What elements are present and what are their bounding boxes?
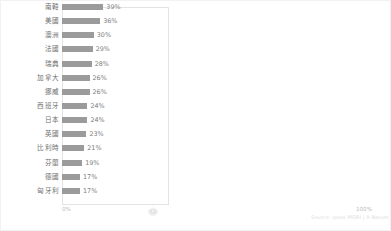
bar [62,145,84,151]
source-attribution: Source: Ipsos MORI | A Nature [290,214,389,220]
bar-row: 法國29% [0,42,391,56]
bar-value-label: 39% [106,0,120,14]
bar [62,61,92,67]
bar-value-label: 21% [87,141,101,155]
bar [62,188,80,194]
bar-value-label: 29% [96,42,110,56]
x-axis-tick-min: 0% [62,206,71,212]
bar [62,174,80,180]
bar-row: 匈牙利17% [0,184,391,198]
bar-row: 挪威26% [0,85,391,99]
bar-row: 西班牙24% [0,99,391,113]
circular-logo-watermark-icon [144,203,162,217]
bar [62,18,100,24]
bar-chart: 南韓39%美國36%澳洲30%法國29%瑞典28%加拿大26%挪威26%西班牙2… [0,0,391,231]
bar-row: 英國23% [0,127,391,141]
bar-value-label: 17% [83,184,97,198]
bar-row: 德國17% [0,170,391,184]
bar-value-label: 26% [93,71,107,85]
bar-rows: 南韓39%美國36%澳洲30%法國29%瑞典28%加拿大26%挪威26%西班牙2… [0,0,391,198]
bar-category-label: 法國 [0,42,59,56]
bar-row: 日本24% [0,113,391,127]
bar-category-label: 芬蘭 [0,156,59,170]
bar-category-label: 加拿大 [0,71,59,85]
bar-value-label: 24% [90,99,104,113]
bar-category-label: 美國 [0,14,59,28]
bar-value-label: 28% [95,57,109,71]
bar-category-label: 瑞典 [0,57,59,71]
bar [62,117,87,123]
bar-value-label: 19% [85,156,99,170]
bar-value-label: 23% [89,127,103,141]
bar-row: 加拿大26% [0,71,391,85]
bar-category-label: 澳洲 [0,28,59,42]
x-axis-tick-max: 100% [356,206,372,212]
bar-row: 瑞典28% [0,57,391,71]
bar [62,103,87,109]
bar-value-label: 30% [97,28,111,42]
bar [62,46,93,52]
bar-category-label: 日本 [0,113,59,127]
bar-value-label: 36% [103,14,117,28]
bar-category-label: 德國 [0,170,59,184]
bar [62,4,103,10]
bar-value-label: 24% [90,113,104,127]
bar-row: 南韓39% [0,0,391,14]
bar [62,131,86,137]
bar-category-label: 英國 [0,127,59,141]
bar-category-label: 西班牙 [0,99,59,113]
bar-row: 比利時21% [0,141,391,155]
bar [62,32,94,38]
bar-value-label: 17% [83,170,97,184]
bar [62,75,90,81]
bar-category-label: 匈牙利 [0,184,59,198]
bar-row: 澳洲30% [0,28,391,42]
bar-category-label: 比利時 [0,141,59,155]
bar-category-label: 南韓 [0,0,59,14]
bar-value-label: 26% [93,85,107,99]
bar [62,89,90,95]
bar-category-label: 挪威 [0,85,59,99]
bar-row: 芬蘭19% [0,156,391,170]
bar [62,160,82,166]
bar-row: 美國36% [0,14,391,28]
